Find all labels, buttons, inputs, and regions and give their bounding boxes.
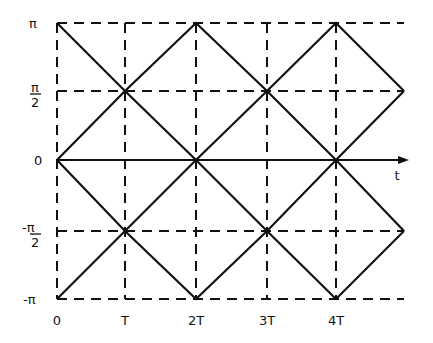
x-axis-labels: 0 T 2T 3T 4T t — [53, 168, 400, 328]
trajectory-lower-a — [57, 160, 404, 299]
y-label-neg-half-pi-den: 2 — [31, 235, 39, 250]
x-label-2T: 2T — [188, 313, 204, 328]
time-axis — [57, 156, 409, 164]
x-label-3T: 3T — [259, 313, 275, 328]
arrow-head-icon — [398, 156, 409, 164]
x-axis-label-t: t — [394, 168, 399, 183]
y-label-zero: 0 — [34, 153, 42, 168]
x-label-4T: 4T — [328, 313, 344, 328]
y-label-pi: π — [29, 16, 37, 31]
trajectory-lower-b — [57, 160, 404, 299]
y-label-half-pi-num: π — [31, 80, 39, 95]
phase-diagram: π π 2 0 -π 2 -π 0 T 2T 3T 4T t — [0, 0, 433, 343]
x-label-T: T — [120, 313, 129, 328]
x-label-0: 0 — [53, 313, 61, 328]
y-axis-labels: π π 2 0 -π 2 -π — [22, 16, 42, 307]
y-label-half-pi-den: 2 — [31, 95, 39, 110]
y-label-neg-half-pi-num: -π — [22, 220, 35, 235]
y-label-neg-pi: -π — [23, 292, 36, 307]
